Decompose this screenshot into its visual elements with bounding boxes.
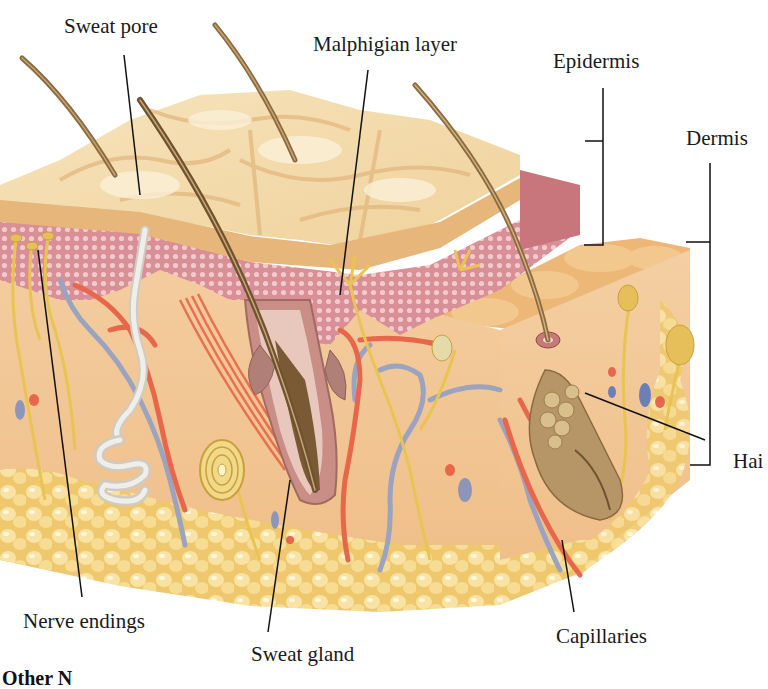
label-hair-follicle: Hai: [733, 451, 763, 472]
pacinian-corpuscle: [200, 440, 244, 500]
bracket-epidermis: [584, 88, 603, 245]
label-sweat-gland: Sweat gland: [251, 644, 354, 665]
label-capillaries: Capillaries: [556, 626, 647, 647]
label-malphigian-layer: Malphigian layer: [313, 34, 457, 55]
label-nerve-endings: Nerve endings: [23, 611, 145, 632]
label-epidermis: Epidermis: [553, 51, 639, 72]
label-sweat-pore: Sweat pore: [64, 16, 158, 37]
label-dermis: Dermis: [686, 128, 748, 149]
caption-partial: Other N: [2, 668, 72, 688]
